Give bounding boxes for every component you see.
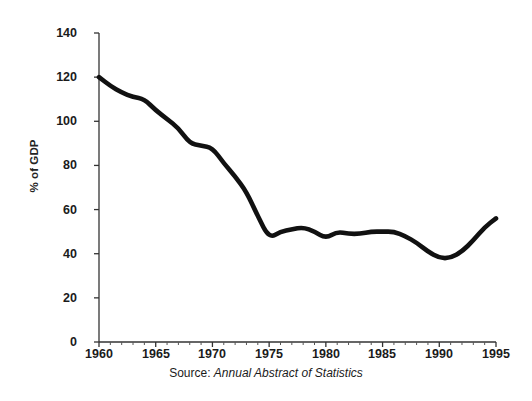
y-tick-label-80: 80 bbox=[37, 158, 77, 172]
source-prefix: Source: bbox=[169, 366, 210, 380]
y-tick-label-0: 0 bbox=[37, 335, 77, 349]
x-tick-label-1995: 1995 bbox=[471, 347, 521, 361]
y-tick-label-120: 120 bbox=[37, 70, 77, 84]
axes bbox=[99, 33, 496, 342]
x-tick-label-1960: 1960 bbox=[74, 347, 124, 361]
data-series-line bbox=[99, 77, 496, 258]
y-tick-label-40: 40 bbox=[37, 247, 77, 261]
x-tick-label-1970: 1970 bbox=[187, 347, 237, 361]
y-tick-label-140: 140 bbox=[37, 26, 77, 40]
x-tick-label-1980: 1980 bbox=[301, 347, 351, 361]
plot-area bbox=[0, 0, 532, 401]
y-tick-label-60: 60 bbox=[37, 203, 77, 217]
x-tick-label-1990: 1990 bbox=[414, 347, 464, 361]
y-tick-label-20: 20 bbox=[37, 291, 77, 305]
y-tick-label-100: 100 bbox=[37, 114, 77, 128]
source-caption: Source: Annual Abstract of Statistics bbox=[0, 366, 532, 380]
source-title: Annual Abstract of Statistics bbox=[214, 366, 363, 380]
x-tick-label-1975: 1975 bbox=[244, 347, 294, 361]
chart-figure: % of GDP 140 120 100 80 60 40 20 0 1960 … bbox=[0, 0, 532, 401]
x-tick-label-1985: 1985 bbox=[357, 347, 407, 361]
x-tick-label-1965: 1965 bbox=[131, 347, 181, 361]
